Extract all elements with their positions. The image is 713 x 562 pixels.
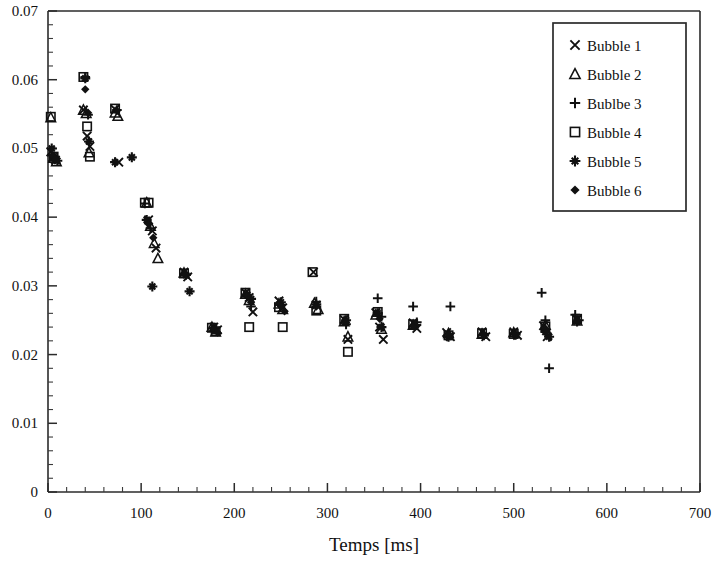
x-tick-label: 100 <box>130 505 153 521</box>
legend-item-label: Bubble 4 <box>587 125 642 141</box>
x-tick-label: 400 <box>409 505 432 521</box>
x-axis-title: Temps [ms] <box>329 534 419 555</box>
legend-item-label: Bubble 1 <box>587 38 642 54</box>
scatter-plot: 010020030040050060070000.010.020.030.040… <box>0 0 713 562</box>
x-tick-label: 500 <box>502 505 525 521</box>
x-tick-label: 300 <box>316 505 339 521</box>
y-tick-label: 0 <box>31 484 39 500</box>
y-tick-label: 0.02 <box>12 347 38 363</box>
y-tick-label: 0.06 <box>12 72 39 88</box>
x-tick-label: 200 <box>223 505 246 521</box>
legend-item-label: Bubble 5 <box>587 154 642 170</box>
y-tick-label: 0.04 <box>12 209 39 225</box>
y-tick-label: 0.05 <box>12 140 38 156</box>
y-tick-label: 0.01 <box>12 415 38 431</box>
legend: Bubble 1Bubble 2Bublbe 3Bubble 4Bubble 5… <box>553 23 686 211</box>
x-tick-label: 0 <box>44 505 52 521</box>
x-tick-label: 700 <box>689 505 712 521</box>
x-tick-label: 600 <box>596 505 619 521</box>
y-tick-label: 0.03 <box>12 278 38 294</box>
legend-item-label: Bubble 6 <box>587 183 642 199</box>
chart-figure: 010020030040050060070000.010.020.030.040… <box>0 0 713 562</box>
legend-item-label: Bublbe 3 <box>587 96 642 112</box>
legend-item-label: Bubble 2 <box>587 67 642 83</box>
y-tick-label: 0.07 <box>12 3 39 19</box>
